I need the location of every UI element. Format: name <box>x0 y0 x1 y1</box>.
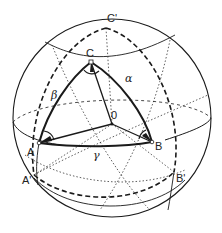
label-beta: β <box>50 89 57 102</box>
label-O: 0 <box>111 109 117 121</box>
label-gamma: γ <box>93 149 100 162</box>
label-A: A <box>27 146 35 158</box>
spherical-triangle-figure: C' C 0 A B A' B' α β γ <box>0 0 222 233</box>
great-circle-through-C <box>45 35 175 57</box>
vertex-A-dot <box>37 141 41 145</box>
equator-front <box>13 122 60 145</box>
label-C: C <box>86 47 94 59</box>
great-circle-lower <box>34 178 185 206</box>
center-O-dot <box>111 123 114 126</box>
dotted-circle-3 <box>34 95 208 175</box>
vertex-B-dot <box>150 140 154 144</box>
side-gamma-arc <box>39 142 152 146</box>
great-circle-through-A <box>37 143 39 185</box>
label-C-prime: C' <box>107 12 117 24</box>
label-alpha: α <box>125 72 133 85</box>
equator-front-right <box>165 118 211 140</box>
label-A-prime: A' <box>22 174 31 186</box>
label-B: B <box>155 140 162 152</box>
label-B-prime: B' <box>176 172 185 184</box>
side-alpha-arc <box>91 62 152 142</box>
vertex-C-dot <box>89 60 93 64</box>
dotted-circle-4 <box>25 155 185 182</box>
